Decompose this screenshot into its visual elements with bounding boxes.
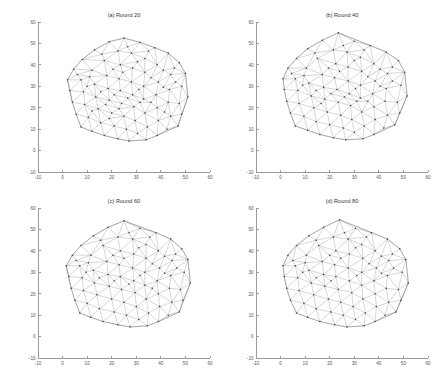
y-tick-label: 60: [30, 206, 36, 211]
sensor-node: [350, 105, 352, 107]
x-tick-label: 0: [279, 361, 282, 366]
sensor-node: [85, 272, 87, 274]
x-tick-label: 10: [303, 175, 309, 180]
panel-title-a: (a) Round 20: [108, 12, 141, 18]
sensor-node: [333, 236, 335, 238]
sensor-node: [156, 280, 158, 282]
sensor-node: [70, 288, 72, 290]
sensor-node: [399, 112, 401, 114]
sensor-node: [176, 267, 178, 269]
sensor-node: [338, 289, 340, 291]
axis-frame: [38, 22, 210, 172]
sensor-node: [75, 260, 77, 262]
x-tick-label: 10: [85, 361, 91, 366]
sensor-node: [83, 290, 85, 292]
sensor-node: [102, 245, 104, 247]
sensor-node: [109, 41, 111, 43]
sensor-node: [170, 116, 172, 118]
sensor-node: [175, 253, 177, 255]
y-tick-label: 40: [248, 249, 254, 254]
sensor-node: [322, 74, 324, 76]
sensor-node: [107, 227, 109, 229]
sensor-node: [355, 228, 357, 230]
x-tick-label: 50: [401, 361, 407, 366]
sensor-node: [328, 298, 330, 300]
sensor-node: [351, 119, 353, 121]
sensor-node: [324, 98, 326, 100]
sensor-node: [187, 96, 189, 98]
mesh-edges-d: [283, 220, 408, 327]
sensor-node: [387, 275, 389, 277]
axis-frame: [256, 22, 428, 172]
x-tick-label: -10: [35, 175, 42, 180]
sensor-node: [315, 121, 317, 123]
sensor-node: [302, 272, 304, 274]
sensor-node: [84, 104, 86, 106]
x-tick-label: -10: [253, 361, 260, 366]
sensor-node: [295, 265, 297, 267]
sensor-node: [175, 81, 177, 83]
sensor-node: [144, 272, 146, 274]
sensor-node: [354, 41, 356, 43]
sensor-node: [109, 118, 111, 120]
sensor-node: [163, 87, 165, 89]
x-tick-label: 10: [85, 175, 91, 180]
sensor-node: [335, 250, 337, 252]
sensor-node: [311, 95, 313, 97]
sensor-node: [335, 63, 337, 65]
sensor-node: [179, 103, 181, 105]
sensor-node: [106, 75, 108, 77]
y-tick-label: 0: [251, 148, 254, 153]
sensor-node: [144, 58, 146, 60]
plot-svg-c: (c) Round 60-100102030405060-10010203040…: [14, 194, 218, 380]
sensor-node: [398, 60, 400, 62]
sensor-node: [107, 274, 109, 276]
x-tick-label: -10: [253, 175, 260, 180]
sensor-node: [286, 101, 288, 103]
sensor-node: [121, 103, 123, 105]
sensor-node: [181, 86, 183, 88]
sensor-node: [349, 280, 351, 282]
x-tick-label: 20: [109, 361, 115, 366]
sensor-node: [120, 276, 122, 278]
sensor-node: [383, 127, 385, 129]
sensor-node: [139, 42, 141, 44]
x-tick-label: 30: [134, 361, 140, 366]
sensor-node: [169, 288, 171, 290]
sensor-node: [361, 244, 363, 246]
sensor-node: [373, 280, 375, 282]
sensor-node: [346, 51, 348, 53]
sensor-node: [385, 88, 387, 90]
sensor-node: [363, 49, 365, 51]
sensor-node: [79, 265, 81, 267]
sensor-node: [313, 294, 315, 296]
sensor-node: [376, 267, 378, 269]
sensor-node: [155, 232, 157, 234]
sensor-node: [354, 60, 356, 62]
y-tick-label: 10: [30, 127, 36, 132]
x-tick-label: 50: [183, 175, 189, 180]
sensor-node: [167, 52, 169, 54]
sensor-node: [347, 238, 349, 240]
sensor-node: [118, 264, 120, 266]
sensor-node: [90, 254, 92, 256]
sensor-node: [164, 255, 166, 257]
sensor-node: [128, 232, 130, 234]
sensor-node: [74, 299, 76, 301]
sensor-node: [134, 292, 136, 294]
y-tick-label: -10: [247, 170, 254, 175]
sensor-node: [327, 111, 329, 113]
sensor-node: [342, 127, 344, 129]
sensor-node: [118, 78, 120, 80]
x-tick-label: 50: [183, 361, 189, 366]
y-tick-label: 50: [248, 41, 254, 46]
sensor-node: [156, 135, 158, 137]
mesh-edges-b: [283, 33, 407, 140]
sensor-node: [128, 283, 130, 285]
sensor-node: [138, 89, 140, 91]
y-tick-label: 40: [30, 63, 36, 68]
y-tick-label: 50: [30, 41, 36, 46]
sensor-node: [145, 139, 147, 141]
sensor-node: [394, 124, 396, 126]
sensor-node: [388, 260, 390, 262]
